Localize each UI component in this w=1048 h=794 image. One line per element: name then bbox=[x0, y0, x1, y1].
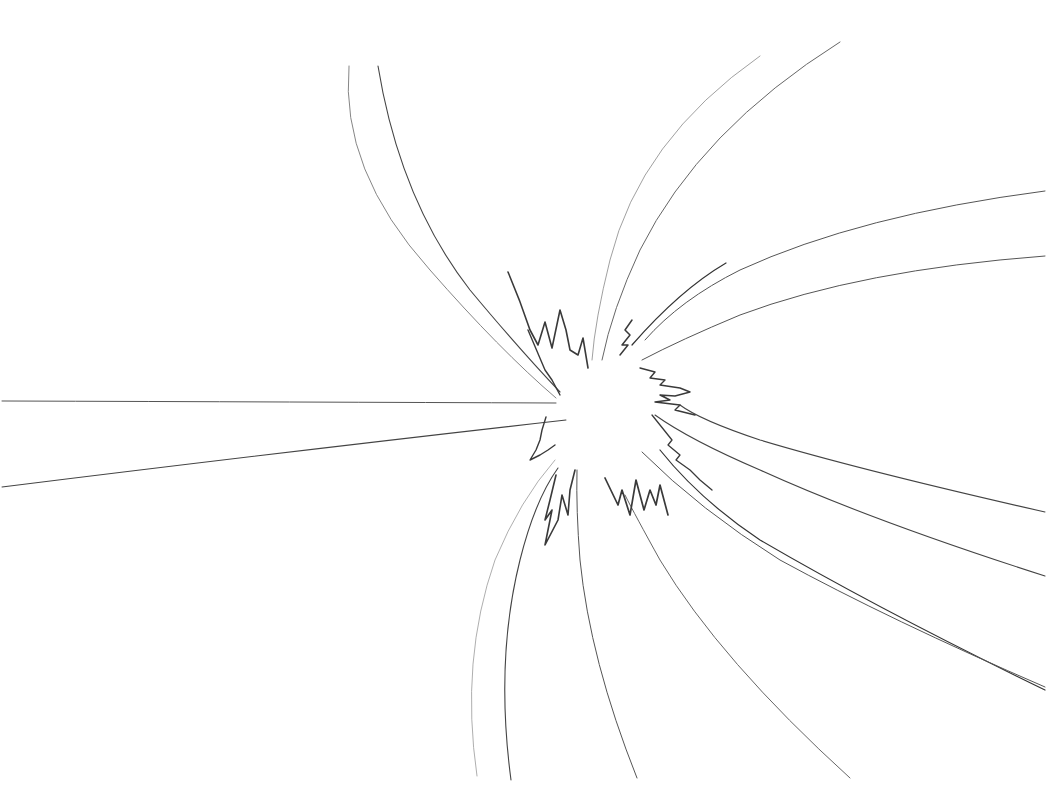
spike-right-lower bbox=[652, 415, 712, 490]
spike-right bbox=[640, 368, 695, 415]
ray-right-lower-4 bbox=[642, 452, 1045, 687]
ray-upper-right-short bbox=[632, 263, 726, 345]
ray-top-left-outer bbox=[348, 66, 556, 398]
ray-bottom-left-outer bbox=[471, 460, 555, 776]
ray-top-right-inner bbox=[602, 42, 840, 360]
spike-top-left bbox=[508, 272, 588, 368]
burst-drawing bbox=[0, 0, 1048, 794]
radiating-lines bbox=[2, 42, 1045, 780]
ray-right-middle bbox=[642, 256, 1045, 360]
sketch-canvas: Hand-drawn pencil sketch of a burst / ex… bbox=[0, 0, 1048, 794]
ray-bottom-left-inner bbox=[505, 468, 558, 780]
ray-left-lower bbox=[2, 420, 566, 487]
ray-top-right-outer bbox=[592, 56, 760, 360]
ray-right-lower-3 bbox=[660, 450, 1045, 690]
ray-top-left-inner bbox=[378, 66, 560, 392]
spike-bottom-right bbox=[605, 478, 668, 515]
ray-left-upper bbox=[2, 401, 556, 403]
ray-right-lower-2 bbox=[655, 415, 1045, 576]
spike-top-right-small bbox=[620, 320, 632, 355]
ray-bottom-right bbox=[625, 495, 850, 778]
ray-bottom-middle bbox=[577, 470, 637, 778]
ray-right-upper bbox=[645, 191, 1045, 340]
